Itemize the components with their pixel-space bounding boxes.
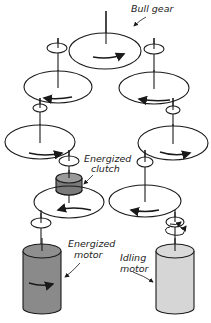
- bull-gear: [69, 11, 141, 69]
- energized-motor-label-line1: Energized: [68, 239, 115, 249]
- idling-motor-label-line1: Idling: [120, 253, 146, 263]
- bull-gear-label: Bull gear: [131, 4, 173, 14]
- bull-gear-leader: [134, 17, 146, 26]
- energized-motor-label-line2: motor: [74, 250, 103, 260]
- idling-motor: [156, 238, 194, 314]
- idling-motor-label-line2: motor: [120, 264, 149, 274]
- clutch-label-line2: clutch: [91, 164, 120, 174]
- energized-motor: [23, 238, 61, 314]
- pinion-left-1: [47, 43, 67, 53]
